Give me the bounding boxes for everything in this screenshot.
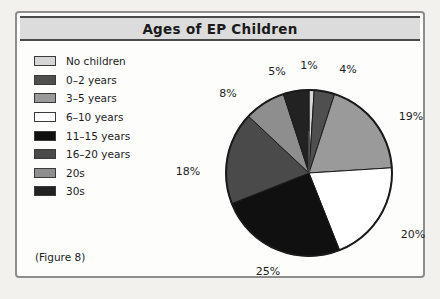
chart-legend: No children0–2 years3–5 years6–10 years1…	[34, 52, 184, 201]
legend-swatch	[34, 168, 56, 178]
legend-item-label: 0–2 years	[66, 74, 117, 86]
slice-label-1pct: 1%	[300, 59, 317, 72]
legend-item: 16–20 years	[34, 145, 184, 164]
legend-swatch	[34, 149, 56, 159]
slice-label-19pct: 19%	[399, 110, 423, 123]
slice-label-5pct: 5%	[268, 65, 285, 78]
pie-chart: 1% 4% 19% 20% 25% 18% 8% 5%	[172, 43, 424, 277]
figure-caption: (Figure 8)	[35, 251, 85, 263]
legend-item-label: 16–20 years	[66, 148, 130, 160]
slice-label-18pct: 18%	[176, 165, 200, 178]
legend-item-label: No children	[66, 55, 126, 67]
legend-swatch	[34, 112, 56, 122]
slice-label-8pct: 8%	[219, 87, 236, 100]
legend-item: 30s	[34, 182, 184, 201]
page-title: Ages of EP Children	[142, 21, 297, 37]
legend-item-label: 30s	[66, 185, 85, 197]
legend-item-label: 3–5 years	[66, 92, 117, 104]
slice-label-20pct: 20%	[401, 228, 425, 241]
slice-label-25pct: 25%	[256, 265, 280, 278]
legend-swatch	[34, 186, 56, 196]
legend-item: 6–10 years	[34, 108, 184, 127]
legend-item-label: 20s	[66, 167, 85, 179]
legend-item-label: 11–15 years	[66, 130, 130, 142]
legend-swatch	[34, 56, 56, 66]
legend-swatch	[34, 131, 56, 141]
legend-item-label: 6–10 years	[66, 111, 124, 123]
legend-swatch	[34, 75, 56, 85]
legend-item: 20s	[34, 164, 184, 183]
chart-title-bar: Ages of EP Children	[20, 16, 420, 41]
legend-item: 11–15 years	[34, 126, 184, 145]
slice-label-4pct: 4%	[339, 63, 356, 76]
figure-frame: Ages of EP Children No children0–2 years…	[15, 11, 425, 278]
legend-item: 3–5 years	[34, 89, 184, 108]
legend-item: 0–2 years	[34, 71, 184, 90]
pie-svg	[172, 43, 424, 277]
legend-swatch	[34, 93, 56, 103]
legend-item: No children	[34, 52, 184, 71]
